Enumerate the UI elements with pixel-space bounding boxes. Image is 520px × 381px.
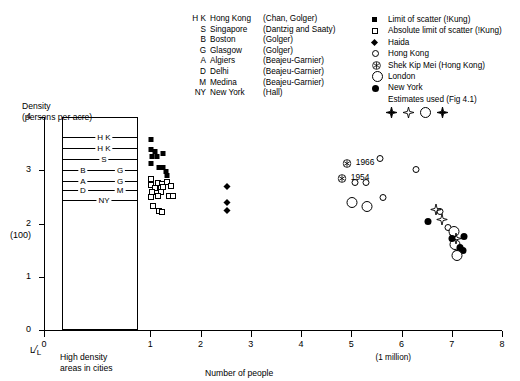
data-point: [377, 148, 384, 166]
data-point: [159, 201, 165, 219]
plot-area: 01234(100)012345678(1 million)Number of …: [0, 0, 520, 381]
point-annotation: 1954: [351, 172, 370, 182]
x-axis-line: [44, 330, 502, 331]
data-point: [347, 194, 358, 212]
open-burst-icon: [450, 230, 461, 241]
y-tick-mark: [39, 224, 45, 225]
y-axis-note: (100): [0, 230, 31, 240]
x-tick-mark: [150, 331, 151, 337]
data-point: [379, 187, 386, 205]
x-tick-label: 4: [292, 339, 310, 349]
filled-diamond-icon: [223, 206, 230, 213]
y-tick-mark: [39, 277, 45, 278]
y-tick-label: 3: [5, 164, 31, 174]
y-tick-label: 0: [5, 324, 31, 334]
inset-line: [62, 170, 138, 171]
y-tick-label: 2: [5, 218, 31, 228]
y-tick-label: 4: [5, 111, 31, 121]
open-burst-icon: [430, 201, 441, 212]
data-point: [362, 198, 373, 216]
x-tick-label: 2: [192, 339, 210, 349]
x-axis-note: (1 million): [376, 353, 412, 362]
large-open-circle-icon: [451, 250, 462, 261]
large-open-circle-icon: [362, 201, 373, 212]
inset-line-label-left: NY: [96, 196, 111, 205]
x-tick-label: 8: [493, 339, 511, 349]
x-tick-mark: [402, 331, 403, 337]
y-tick-mark: [39, 117, 45, 118]
inset-line-label-left: S: [99, 154, 108, 163]
x-tick-mark: [251, 331, 252, 337]
inset-line-label-left: D: [78, 186, 88, 195]
x-tick-label: 7: [443, 339, 461, 349]
y-tick-label: 1: [5, 271, 31, 281]
circled-star-icon: [343, 154, 352, 163]
x-tick-mark: [502, 331, 503, 337]
circled-star-icon: [338, 169, 347, 178]
data-point: [451, 247, 462, 265]
open-circle-icon: [377, 155, 384, 162]
y-tick-mark: [39, 170, 45, 171]
inset-line-label-left: H K: [95, 133, 112, 142]
inset-line-label-left: B: [78, 166, 87, 175]
data-point: [224, 199, 229, 217]
open-circle-icon: [379, 194, 386, 201]
open-circle-icon: [412, 166, 419, 173]
data-point: [170, 185, 176, 203]
filled-diamond-icon: [223, 183, 230, 190]
corner-label: L⁄L: [30, 344, 41, 357]
x-axis-title: Number of people: [205, 368, 273, 378]
data-point: [338, 169, 347, 187]
inset-caption: High densityareas in cities: [60, 352, 113, 373]
inset-line-label-right: G: [115, 176, 125, 185]
point-annotation: 1966: [356, 157, 375, 167]
inset-line-label-left: A: [78, 176, 87, 185]
open-square-icon: [170, 193, 176, 199]
data-point: [430, 201, 441, 219]
x-tick-label: 1: [141, 339, 159, 349]
inset-line-label-right: G: [115, 166, 125, 175]
data-point: [412, 159, 419, 177]
x-tick-mark: [301, 331, 302, 337]
figure-root: H KHong Kong(Chan, Golger)SSingapore(Dan…: [0, 0, 520, 381]
inset-line: [62, 181, 138, 182]
large-open-circle-icon: [347, 197, 358, 208]
x-tick-label: 3: [242, 339, 260, 349]
filled-circle-icon: [425, 218, 432, 225]
open-square-icon: [159, 209, 165, 215]
inset-line-label-left: H K: [95, 143, 112, 152]
inset-line-label-right: M: [115, 186, 126, 195]
x-tick-mark: [452, 331, 453, 337]
x-tick-label: 6: [393, 339, 411, 349]
filled-square-icon: [149, 161, 154, 166]
x-tick-mark: [201, 331, 202, 337]
inset-line: [62, 190, 138, 191]
x-tick-mark: [44, 331, 45, 337]
x-tick-label: 5: [342, 339, 360, 349]
x-tick-mark: [351, 331, 352, 337]
